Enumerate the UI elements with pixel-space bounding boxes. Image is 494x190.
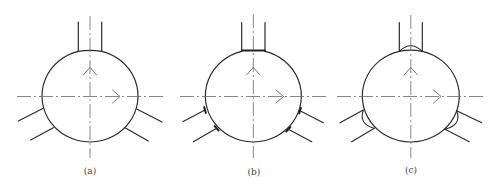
panel-c bbox=[337, 15, 484, 158]
branch-line bbox=[193, 128, 216, 141]
branch-line bbox=[300, 111, 323, 123]
branch-line bbox=[31, 128, 54, 140]
caption-a: (a) bbox=[84, 166, 96, 176]
branch-line bbox=[137, 109, 162, 122]
branch-line bbox=[125, 128, 148, 141]
branch-line bbox=[340, 110, 363, 123]
caption-c: (c) bbox=[405, 165, 417, 175]
branch-line bbox=[457, 111, 482, 123]
caption-b: (b) bbox=[248, 167, 261, 177]
panel-a bbox=[17, 16, 163, 158]
branch-line bbox=[352, 128, 375, 141]
branch-line bbox=[18, 108, 43, 121]
branch-line bbox=[288, 129, 311, 141]
vessel-nozzle-diagram bbox=[0, 0, 494, 190]
branch-line bbox=[183, 110, 205, 122]
branch-flat-joint bbox=[204, 107, 206, 113]
panel-b bbox=[180, 14, 327, 158]
branch-line bbox=[445, 129, 469, 141]
